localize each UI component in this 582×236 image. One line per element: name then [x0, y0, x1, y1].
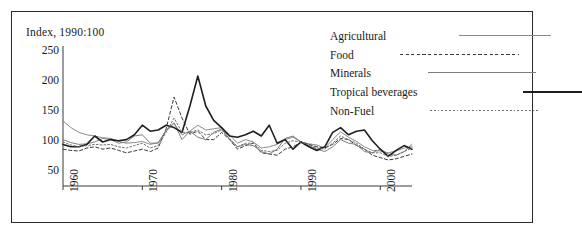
- y-axis-tick-label: 250: [25, 44, 59, 56]
- legend-line-swatch: [459, 31, 551, 41]
- legend-item: Tropical beverages: [330, 83, 530, 102]
- legend-item: Food: [330, 46, 530, 65]
- legend-label: Tropical beverages: [330, 86, 417, 98]
- legend-label: Minerals: [330, 67, 371, 79]
- legend-item: Agricultural: [330, 27, 530, 46]
- chart-legend: AgriculturalFoodMineralsTropical beverag…: [330, 27, 530, 120]
- legend-item: Non-Fuel: [330, 101, 530, 120]
- series-line-2: [63, 123, 412, 155]
- legend-line-swatch: [400, 50, 519, 60]
- legend-label: Non-Fuel: [330, 105, 374, 117]
- legend-label: Food: [330, 49, 354, 61]
- x-axis-tick-label: 1970: [147, 169, 159, 192]
- x-axis-tick-label: 1990: [306, 169, 318, 192]
- x-tick-marks: [63, 186, 380, 190]
- legend-label: Agricultural: [330, 30, 386, 42]
- legend-line-swatch: [430, 106, 539, 116]
- legend-item: Minerals: [330, 64, 530, 83]
- legend-line-swatch: [523, 87, 582, 97]
- x-axis-tick-label: 1960: [68, 169, 80, 192]
- y-axis-tick-label: 50: [25, 164, 59, 176]
- legend-line-swatch: [428, 68, 536, 78]
- y-axis-tick-label: 150: [25, 104, 59, 116]
- x-axis-tick-label: 2000: [385, 169, 397, 192]
- y-axis-tick-label: 100: [25, 134, 59, 146]
- y-axis-tick-label: 200: [25, 74, 59, 86]
- x-axis-tick-label: 1980: [227, 169, 239, 192]
